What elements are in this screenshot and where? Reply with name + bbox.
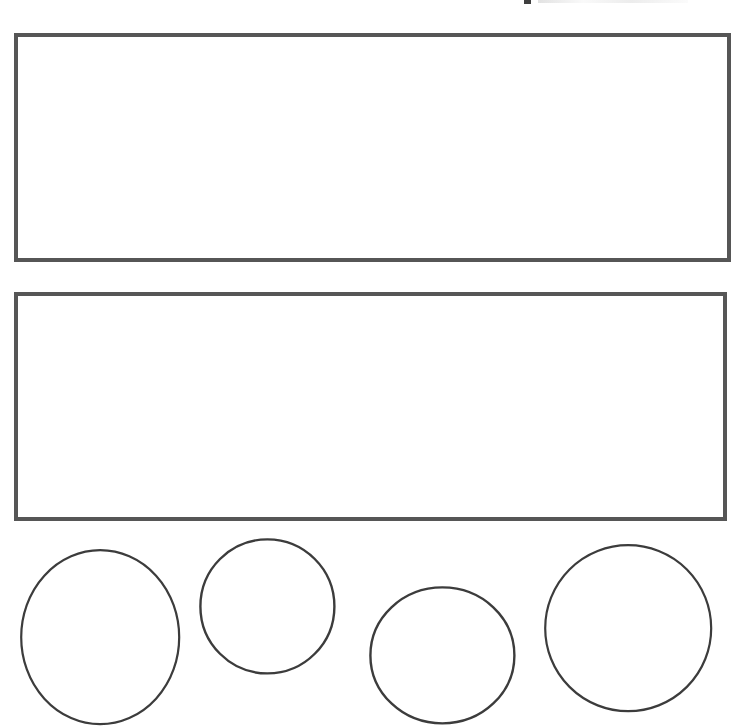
upper-rectangle xyxy=(14,33,731,262)
circle-3 xyxy=(366,583,519,728)
glyph-smear-icon xyxy=(538,0,688,3)
circle-2-outline xyxy=(200,539,334,673)
clipped-header-remnant xyxy=(512,0,692,6)
circle-2 xyxy=(196,535,339,678)
lower-rectangle xyxy=(14,292,727,521)
circle-1-outline xyxy=(21,550,179,724)
circle-4 xyxy=(541,541,715,715)
circle-3-outline xyxy=(370,587,514,723)
circle-4-outline xyxy=(545,545,711,711)
circle-1 xyxy=(17,546,183,728)
diagram-canvas xyxy=(0,0,737,728)
glyph-fragment-icon xyxy=(524,0,531,4)
